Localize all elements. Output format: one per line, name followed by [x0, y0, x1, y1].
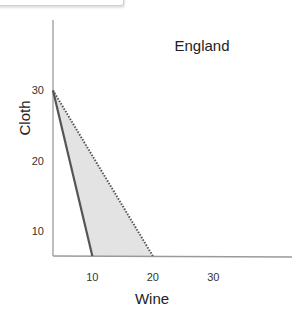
chart: 102030102030 England Wine Cloth: [0, 0, 306, 323]
y-tick-label: 20: [32, 155, 44, 167]
x-tick-label: 20: [147, 271, 159, 283]
x-axis: [53, 256, 292, 257]
y-tick-label: 10: [32, 225, 44, 237]
x-tick-label: 30: [207, 271, 219, 283]
chart-title: England: [174, 37, 229, 54]
x-axis-label: Wine: [135, 290, 169, 307]
x-tick-label: 10: [86, 271, 98, 283]
y-axis-label: Cloth: [16, 100, 33, 135]
y-tick-label: 30: [32, 84, 44, 96]
